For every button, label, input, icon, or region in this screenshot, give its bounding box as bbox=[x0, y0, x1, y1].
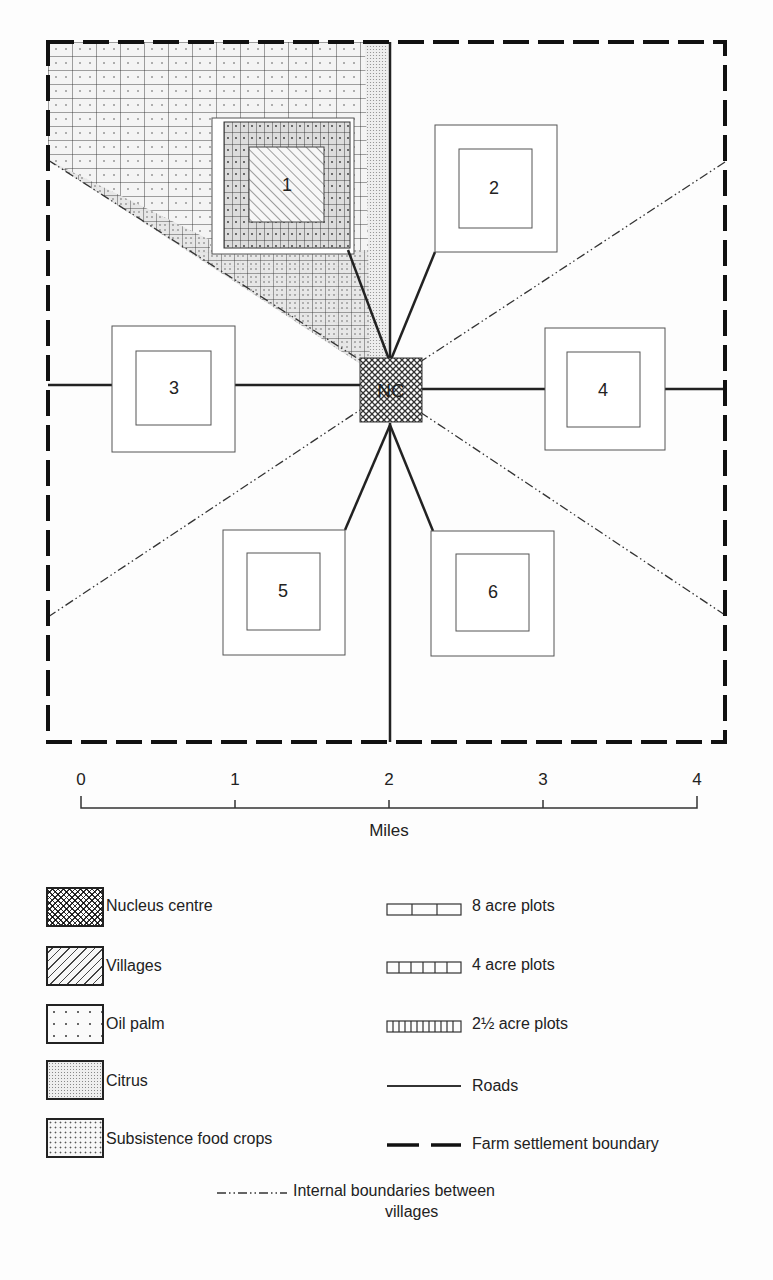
citrus-swatch-icon bbox=[46, 1060, 104, 1100]
nucleus-swatch-icon bbox=[46, 887, 104, 927]
scale-tick-1: 1 bbox=[230, 770, 239, 789]
legend-plot4-label: 4 acre plots bbox=[472, 956, 555, 974]
plot25-icon bbox=[387, 1021, 461, 1032]
scale-tick-0: 0 bbox=[76, 770, 85, 789]
villages-swatch-icon bbox=[46, 946, 104, 986]
legend-boundary-label: Farm settlement boundary bbox=[472, 1135, 659, 1153]
legend-plot25-label: 2½ acre plots bbox=[472, 1015, 568, 1033]
oilpalm-swatch-icon bbox=[46, 1004, 104, 1044]
village-4-label: 4 bbox=[598, 380, 608, 400]
legend-oilpalm-label: Oil palm bbox=[106, 1015, 165, 1033]
legend-nucleus-label: Nucleus centre bbox=[106, 897, 213, 915]
legend-internal-label-2: villages bbox=[385, 1203, 438, 1221]
settlement-map: 1 2 3 4 5 6 NC 0 1 2 3 4 Miles bbox=[0, 0, 773, 880]
scale-tick-2: 2 bbox=[384, 770, 393, 789]
nucleus-label: NC bbox=[377, 380, 404, 401]
plot8-icon bbox=[387, 904, 461, 915]
subsistence-swatch-icon bbox=[46, 1118, 104, 1158]
legend-citrus-label: Citrus bbox=[106, 1072, 148, 1090]
internal-boundary-icon bbox=[215, 1188, 289, 1198]
village-5-label: 5 bbox=[278, 581, 288, 601]
legend-roads-label: Roads bbox=[472, 1077, 518, 1095]
legend-right-icons bbox=[385, 900, 465, 1200]
legend-plot8-label: 8 acre plots bbox=[472, 897, 555, 915]
plot4-icon bbox=[387, 962, 461, 973]
village-3-label: 3 bbox=[169, 378, 179, 398]
legend-subsistence-label: Subsistence food crops bbox=[106, 1130, 272, 1148]
village-1-label: 1 bbox=[282, 175, 292, 195]
village-2-label: 2 bbox=[489, 178, 499, 198]
scale-unit: Miles bbox=[369, 821, 409, 840]
scale-tick-4: 4 bbox=[692, 770, 701, 789]
scale-bar: 0 1 2 3 4 Miles bbox=[76, 770, 701, 840]
scale-tick-3: 3 bbox=[538, 770, 547, 789]
legend-villages-label: Villages bbox=[106, 957, 162, 975]
village-6-label: 6 bbox=[488, 582, 498, 602]
legend-internal-label-1: Internal boundaries between bbox=[293, 1182, 495, 1200]
